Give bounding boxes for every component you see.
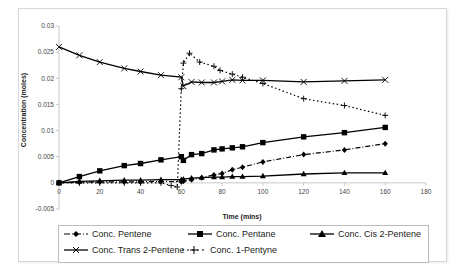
x-tick-label: 80	[218, 188, 226, 195]
x-tick-label: 20	[96, 188, 104, 195]
data-point-plus	[382, 112, 388, 118]
x-tick-label: 40	[137, 188, 145, 195]
y-tick-label: 0.025	[38, 48, 55, 55]
diamond-dashdot-marker-icon	[63, 229, 89, 239]
data-point-plus	[301, 96, 307, 102]
triangle-solid-marker-icon	[309, 229, 335, 239]
data-point-square	[301, 134, 306, 139]
data-point-square	[199, 151, 204, 156]
x-tick-labels: 020406080100120140160180	[57, 188, 432, 195]
data-point-diamond	[230, 167, 235, 173]
data-point-diamond	[383, 141, 388, 147]
x-tick-label: 60	[178, 188, 186, 195]
data-point-diamond	[260, 159, 265, 165]
data-point-diamond	[342, 147, 347, 153]
data-point-x	[76, 52, 82, 58]
legend-item-pentane: Conc. Pentane	[187, 229, 276, 239]
legend-item-cis-2-pentene: Conc. Cis 2-Pentene	[309, 229, 421, 239]
legend-label: Conc. Trans 2-Pentene	[92, 245, 185, 255]
data-point-plus	[217, 67, 223, 73]
data-point-plus	[180, 60, 186, 66]
data-point-plus	[229, 71, 235, 77]
y-tick-label: 0.01	[41, 127, 54, 134]
x-tick-label: 120	[298, 188, 309, 195]
series-conc-trans-2-pentene	[56, 44, 388, 89]
data-point-square	[230, 145, 235, 150]
data-point-square	[219, 146, 224, 151]
data-point-diamond	[240, 164, 245, 170]
data-point-plus	[341, 102, 347, 108]
series-line	[59, 53, 385, 187]
legend-label: Conc. 1-Pentyne	[210, 245, 277, 255]
legend-label: Conc. Pentane	[216, 229, 276, 239]
y-tick-labels: -0.00500.0050.010.0150.020.0250.03	[36, 22, 55, 212]
data-point-square	[97, 168, 102, 173]
data-point-plus	[240, 74, 246, 80]
data-point-plus	[211, 63, 217, 69]
legend-item-pentene: Conc. Pentene	[63, 229, 152, 239]
plus-dotted-marker-icon	[181, 245, 207, 255]
data-point-square	[138, 161, 143, 166]
x-axis-label: Time (mins)	[222, 213, 261, 221]
y-tick-label: 0.02	[41, 75, 54, 82]
data-point-square	[342, 130, 347, 135]
y-tick-label: 0.015	[38, 101, 55, 108]
y-tick-label: 0	[50, 179, 54, 186]
data-point-plus	[260, 81, 266, 87]
x-solid-marker-icon	[63, 245, 89, 255]
legend: Conc. Pentene Conc. Pentane Conc. Cis 2-…	[58, 225, 429, 263]
x-tick-label: 180	[421, 188, 432, 195]
data-point-diamond	[301, 152, 306, 158]
legend-label: Conc. Cis 2-Pentene	[338, 229, 421, 239]
data-point-plus	[168, 182, 174, 188]
data-point-square	[158, 157, 163, 162]
y-tick-label: 0.005	[38, 153, 55, 160]
x-tick-label: 100	[257, 188, 268, 195]
data-point-square	[189, 152, 194, 157]
data-point-square	[240, 144, 245, 149]
x-tick-label: 140	[339, 188, 350, 195]
series-layer	[56, 44, 388, 190]
data-point-square	[181, 158, 186, 163]
data-point-square	[122, 163, 127, 168]
legend-item-1-pentyne: Conc. 1-Pentyne	[181, 245, 277, 255]
x-tick-label: 160	[380, 188, 391, 195]
y-tick-label: -0.005	[36, 205, 55, 212]
data-point-square	[260, 140, 265, 145]
data-point-square	[383, 125, 388, 130]
x-tick-label: 0	[57, 188, 61, 195]
square-solid-marker-icon	[187, 229, 213, 239]
legend-item-trans-2-pentene: Conc. Trans 2-Pentene	[63, 245, 185, 255]
data-point-square	[211, 147, 216, 152]
y-tick-label: 0.03	[41, 22, 54, 29]
y-axis-label: Concentration (moles)	[20, 73, 28, 147]
legend-label: Conc. Pentene	[92, 229, 152, 239]
series-line	[59, 47, 385, 86]
